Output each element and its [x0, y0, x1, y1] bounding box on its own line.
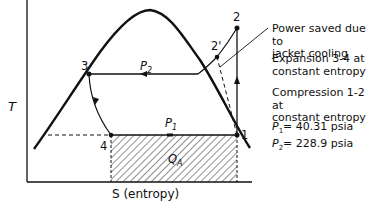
note-p2: P2= 228.9 psia — [272, 138, 353, 155]
point-2p-label: 2' — [211, 40, 221, 53]
note-compression: Compression 1-2 at constant entropy — [272, 87, 377, 125]
point-4-marker — [109, 133, 114, 138]
point-4-label: 4 — [100, 140, 107, 153]
y-axis-label: T — [8, 100, 16, 113]
point-2-marker — [235, 26, 240, 31]
note-leader — [220, 28, 268, 67]
x-axis-label: S (entropy) — [112, 188, 179, 201]
saturation-dome — [34, 10, 250, 149]
point-3-label: 3 — [81, 60, 88, 73]
p2-line-label: P2 — [140, 60, 152, 77]
p1-line-label: P1 — [165, 117, 177, 134]
point-2p-marker — [215, 55, 220, 60]
qa-area-label: QA — [168, 153, 183, 170]
note-pressures: P1= 40.31 psia P2= 228.9 psia — [272, 121, 353, 154]
note-expansion: Expansion 3-4 at constant entropy — [272, 53, 366, 78]
expansion-curve — [89, 74, 111, 135]
point-2-label: 2 — [233, 11, 240, 24]
note-p1: P1= 40.31 psia — [272, 121, 353, 138]
point-1-marker — [235, 133, 240, 138]
point-1-label: 1 — [241, 129, 248, 142]
